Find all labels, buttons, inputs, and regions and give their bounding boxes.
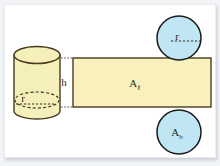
top-base-circle — [157, 16, 201, 60]
figure-canvas: h r r Aℓ Ab — [4, 4, 216, 158]
label-base-area-base: A — [171, 126, 179, 138]
label-top-circle-radius: r — [175, 30, 179, 42]
cylinder-body — [14, 55, 60, 119]
label-lateral-area-subscript: ℓ — [137, 84, 140, 92]
label-cylinder-height: h — [61, 76, 67, 88]
label-lateral-area-base: A — [129, 77, 137, 89]
lateral-surface-rectangle — [73, 58, 211, 107]
label-cylinder-radius: r — [21, 92, 25, 104]
cylinder-net-diagram: h r r Aℓ Ab — [5, 5, 215, 157]
cylinder-top-ellipse — [14, 47, 60, 64]
label-base-area-subscript: b — [179, 133, 183, 141]
figure-frame: h r r Aℓ Ab — [0, 0, 220, 166]
